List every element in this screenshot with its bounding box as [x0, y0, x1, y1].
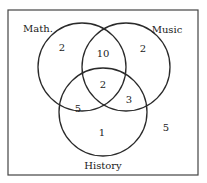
history-set-label: History: [84, 160, 122, 171]
venn-diagram: Math. Music History 2 10 2 2 5 3 1 5: [0, 0, 207, 183]
math-set-label: Math.: [23, 23, 53, 34]
region-math-history-count: 5: [75, 103, 81, 114]
region-music-only-count: 2: [140, 43, 146, 54]
region-history-only-count: 1: [99, 127, 105, 138]
region-none-count: 5: [163, 122, 169, 133]
region-math-music-count: 10: [97, 48, 110, 59]
music-set-label: Music: [152, 24, 183, 35]
region-math-only-count: 2: [59, 42, 65, 53]
region-music-history-count: 3: [126, 94, 132, 105]
region-all-three-count: 2: [100, 79, 106, 90]
